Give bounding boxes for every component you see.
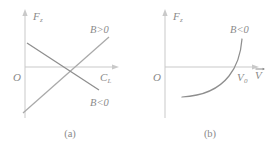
panel-a: Fz CL O B>0 B<0 (a) bbox=[0, 0, 140, 152]
panel-b-series-label-b-negative: B<0 bbox=[230, 25, 249, 36]
figure-container: Fz CL O B>0 B<0 (a) Fz bbox=[0, 0, 280, 152]
panel-b-marker-label-v0-subscript: 0 bbox=[244, 77, 248, 85]
panel-b-marker-label-v0-text: V bbox=[237, 71, 244, 83]
panel-b-x-axis-overbar-icon bbox=[255, 67, 265, 71]
panel-a-series-label-b-negative: B<0 bbox=[90, 98, 109, 109]
panel-b-y-axis-arrow bbox=[162, 9, 167, 16]
panel-a-x-axis-label: CL bbox=[100, 72, 111, 85]
panel-a-x-axis-arrow bbox=[112, 64, 119, 69]
panel-b-plot bbox=[140, 0, 280, 128]
panel-b-y-axis-label: Fz bbox=[173, 11, 183, 24]
panel-b-y-axis-label-subscript: z bbox=[180, 16, 183, 24]
panel-a-y-axis-label-subscript: z bbox=[40, 16, 43, 24]
panel-b-x-axis-label: V bbox=[255, 70, 262, 81]
panel-a-x-axis-label-subscript: L bbox=[107, 77, 111, 85]
panel-b-caption: (b) bbox=[140, 128, 280, 139]
panel-b-curve-b-negative bbox=[182, 39, 242, 97]
panel-a-plot bbox=[0, 0, 140, 128]
panel-a-y-axis-arrow bbox=[22, 9, 27, 16]
panel-b: Fz V O V0 B<0 (b) bbox=[140, 0, 280, 152]
panel-a-series-label-b-positive: B>0 bbox=[90, 25, 109, 36]
panel-a-y-axis-label: Fz bbox=[33, 11, 43, 24]
panel-b-x-axis-label-vector: V bbox=[255, 70, 262, 81]
panel-b-origin-label: O bbox=[153, 72, 161, 83]
panel-b-y-axis-label-text: F bbox=[173, 10, 180, 22]
panel-a-y-axis-label-text: F bbox=[33, 10, 40, 22]
panel-b-marker-label-v0: V0 bbox=[237, 72, 247, 85]
panel-a-caption: (a) bbox=[0, 128, 140, 139]
panel-a-origin-label: O bbox=[13, 72, 21, 83]
